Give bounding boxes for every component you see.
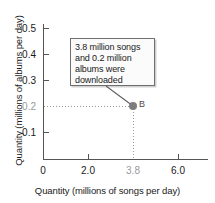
y-axis-tick-0.3 [44, 80, 49, 81]
annotation-line-3: albums were [75, 64, 150, 75]
x-axis-title: Quantity (millions of songs per day) [0, 185, 215, 196]
y-tick-label-0.2: 0.2 [10, 102, 36, 112]
annotation-line-4: downloaded [75, 75, 150, 86]
x-axis-line [43, 159, 208, 160]
annotation-line-2: and 0.2 million [75, 53, 150, 64]
y-tick-label-0.1: 0.1 [10, 128, 36, 138]
y-tick-label-0.4: 0.4 [10, 50, 36, 60]
data-point-b[interactable] [129, 102, 137, 110]
y-tick-label-0.3: 0.3 [10, 76, 36, 86]
horizontal-guide-line [44, 106, 133, 107]
x-axis-tick-6.0 [178, 154, 179, 159]
y-axis-tick-0.1 [44, 132, 49, 133]
y-axis-title: Quantity (millions of albums per day) [13, 11, 24, 171]
data-point-b-label: B [139, 100, 145, 109]
y-axis-line [43, 24, 44, 160]
y-axis-tick-0.4 [44, 54, 49, 55]
x-tick-label-0: 0 [28, 166, 58, 176]
x-tick-label-6.0: 6.0 [163, 166, 193, 176]
y-tick-label-0.5: 0.5 [10, 24, 36, 34]
chart-container: Quantity (millions of albums per day) Qu… [0, 0, 215, 203]
x-axis-tick-2.0 [88, 154, 89, 159]
annotation-callout-box: 3.8 million songs and 0.2 million albums… [70, 38, 155, 86]
x-tick-label-3.8: 3.8 [118, 166, 148, 176]
x-tick-label-2.0: 2.0 [73, 166, 103, 176]
y-axis-tick-0.5 [44, 28, 49, 29]
vertical-guide-line [133, 106, 134, 159]
annotation-line-1: 3.8 million songs [75, 42, 150, 53]
